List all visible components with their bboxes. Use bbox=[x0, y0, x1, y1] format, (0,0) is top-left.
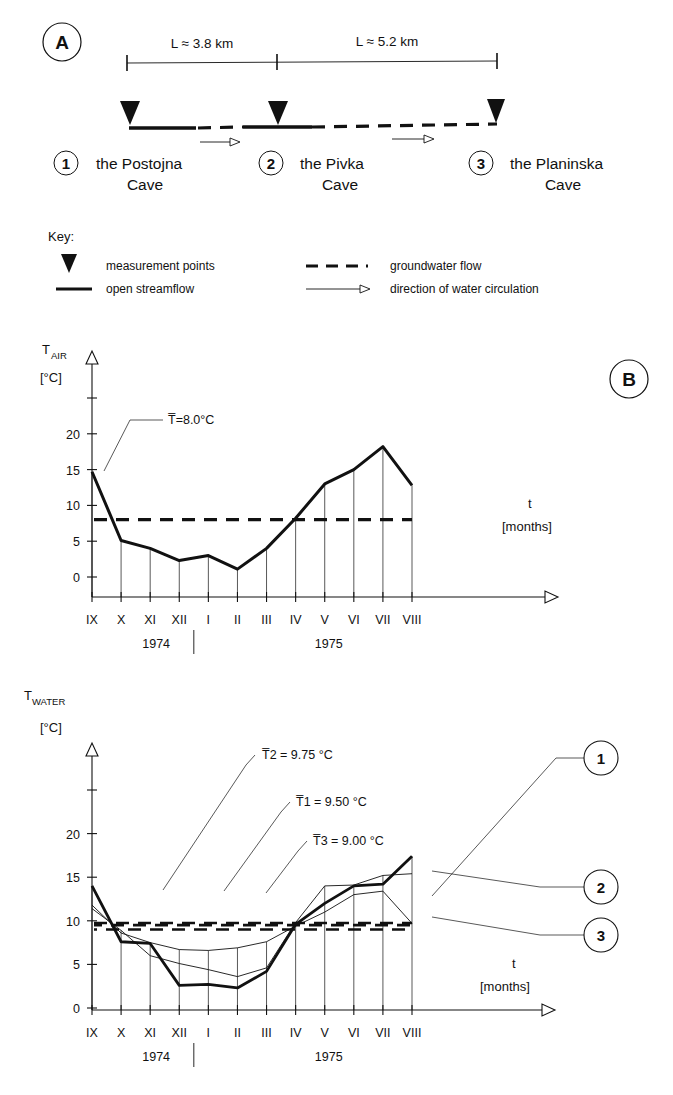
y-axis-tick-label: 10 bbox=[66, 499, 80, 513]
water-circulation-arrow-2 bbox=[392, 135, 434, 143]
arrow-icon bbox=[306, 285, 370, 293]
x-axis-month-label: V bbox=[321, 1026, 330, 1040]
air-chart-y-axis-name: T bbox=[42, 342, 50, 357]
series-number-2: 2 bbox=[597, 879, 605, 896]
x-axis-month-label: X bbox=[117, 613, 126, 627]
x-axis-month-label: III bbox=[261, 613, 271, 627]
cave-name-line2-2: Cave bbox=[322, 176, 358, 193]
y-axis-tick-label: 0 bbox=[73, 571, 80, 585]
figure-svg: A L ≈ 3.8 km L ≈ 5.2 km bbox=[0, 0, 673, 1095]
y-axis-tick-label: 5 bbox=[73, 535, 80, 549]
water-chart-y-axis-name: T bbox=[24, 688, 32, 703]
air-chart-y-axis-unit: [°C] bbox=[40, 370, 62, 385]
cave-name-line2-1: Cave bbox=[127, 176, 163, 193]
x-axis-month-label: VIII bbox=[403, 1026, 422, 1040]
distance-label-2: L ≈ 5.2 km bbox=[356, 34, 418, 49]
cave-name-line1-3: the Planinska bbox=[510, 155, 603, 172]
y-axis-arrowhead bbox=[86, 351, 98, 364]
stream-schematic bbox=[120, 99, 505, 146]
key-label-open-streamflow: open streamflow bbox=[106, 282, 194, 296]
key-label-groundwater-flow: groundwater flow bbox=[390, 259, 482, 273]
x-axis-month-label: II bbox=[234, 1026, 241, 1040]
air-chart-plot-area: 05101520IXXXIXIIIIIIIIIVVVIVIIVIII197419… bbox=[66, 351, 558, 654]
y-axis-tick-label: 0 bbox=[73, 1002, 80, 1016]
water-chart-mean-label-t3: T̅3 = 9.00 °C bbox=[313, 834, 384, 848]
x-axis-month-label: IV bbox=[290, 1026, 302, 1040]
measurement-point-marker-1 bbox=[120, 101, 140, 125]
x-axis-month-label: X bbox=[117, 1026, 126, 1040]
water-chart-plot-area: 05101520IXXXIXIIIIIIIIIVVVIVIIVIII197419… bbox=[66, 743, 555, 1067]
cave-entry-1: 1 the Postojna Cave bbox=[54, 151, 183, 193]
cave-name-line2-3: Cave bbox=[545, 176, 581, 193]
distance-ruler: L ≈ 3.8 km L ≈ 5.2 km bbox=[127, 34, 497, 71]
x-axis-month-label: IV bbox=[290, 613, 302, 627]
x-axis-month-label: I bbox=[207, 613, 210, 627]
x-axis-month-label: XII bbox=[172, 613, 187, 627]
x-axis-month-label: IX bbox=[86, 1026, 98, 1040]
y-axis-tick-label: 15 bbox=[66, 464, 80, 478]
year-label: 1974 bbox=[142, 637, 170, 651]
triangle-marker-icon bbox=[61, 254, 77, 273]
y-axis-arrowhead bbox=[86, 743, 98, 756]
water-chart-mean-leader-lines bbox=[163, 755, 307, 893]
cave-number-1: 1 bbox=[62, 155, 70, 172]
x-axis-month-label: XI bbox=[144, 613, 156, 627]
x-axis-month-label: VI bbox=[348, 613, 360, 627]
y-axis-tick-label: 15 bbox=[66, 871, 80, 885]
water-chart-y-axis-unit: [°C] bbox=[40, 720, 62, 735]
water-circulation-arrow-1 bbox=[200, 138, 240, 146]
y-axis-tick-label: 10 bbox=[66, 915, 80, 929]
distance-label-1: L ≈ 3.8 km bbox=[171, 36, 233, 51]
cave-name-line1-1: the Postojna bbox=[96, 155, 183, 172]
x-axis-arrowhead bbox=[542, 1004, 555, 1016]
x-axis-month-label: II bbox=[234, 613, 241, 627]
key-legend: Key: measurement points open streamflow … bbox=[48, 229, 539, 296]
panel-a: A L ≈ 3.8 km L ≈ 5.2 km bbox=[43, 23, 603, 296]
x-axis-month-label: III bbox=[261, 1026, 271, 1040]
x-axis-month-label: IX bbox=[86, 613, 98, 627]
key-label-direction-of-water-circulation: direction of water circulation bbox=[390, 282, 539, 296]
x-axis-month-label: VI bbox=[348, 1026, 360, 1040]
chart-water-temperature: T WATER [°C] t [months] 05101520IXXXIXII… bbox=[24, 688, 618, 1067]
x-axis-arrowhead bbox=[545, 591, 558, 603]
series-callout-2: 2 bbox=[432, 870, 618, 904]
air-chart-x-axis-name: t bbox=[528, 496, 532, 511]
y-axis-tick-label: 20 bbox=[66, 428, 80, 442]
year-label: 1974 bbox=[142, 1050, 170, 1064]
water-chart-y-axis-subscript: WATER bbox=[32, 696, 65, 707]
air-chart-y-axis-subscript: AIR bbox=[51, 350, 67, 361]
cave-list: 1 the Postojna Cave 2 the Pivka Cave 3 t… bbox=[54, 151, 603, 193]
x-axis-month-label: VII bbox=[375, 613, 390, 627]
x-axis-month-label: XII bbox=[172, 1026, 187, 1040]
x-axis-month-label: VII bbox=[375, 1026, 390, 1040]
key-label-measurement-points: measurement points bbox=[106, 259, 215, 273]
air-chart-x-axis-unit: [months] bbox=[502, 519, 552, 534]
year-label: 1975 bbox=[315, 1050, 343, 1064]
water-chart-x-axis-unit: [months] bbox=[480, 979, 530, 994]
series-callout-3: 3 bbox=[432, 917, 618, 952]
cave-entry-3: 3 the Planinska Cave bbox=[469, 151, 603, 193]
measurement-point-marker-2 bbox=[268, 101, 288, 125]
air-chart-mean-leader-line bbox=[104, 420, 163, 471]
year-label: 1975 bbox=[315, 637, 343, 651]
water-chart-mean-label-t2: T̅2 = 9.75 °C bbox=[262, 748, 333, 762]
air-chart-mean-line-label: T̅=8.0°C bbox=[168, 413, 215, 427]
panel-b-letter: B bbox=[622, 369, 636, 390]
y-axis-tick-label: 5 bbox=[73, 958, 80, 972]
key-title: Key: bbox=[48, 229, 74, 244]
series-callout-1: 1 bbox=[432, 741, 618, 896]
x-axis-month-label: XI bbox=[144, 1026, 156, 1040]
panel-a-letter: A bbox=[55, 32, 69, 53]
series-number-3: 3 bbox=[597, 927, 605, 944]
y-axis-tick-label: 20 bbox=[66, 828, 80, 842]
cave-name-line1-2: the Pivka bbox=[300, 155, 364, 172]
groundwater-flow-segment-1 bbox=[198, 127, 243, 128]
measurement-point-marker-3 bbox=[487, 99, 505, 123]
water-chart-x-axis-name: t bbox=[512, 956, 516, 971]
cave-number-3: 3 bbox=[477, 155, 485, 172]
groundwater-flow-segment-2 bbox=[312, 124, 497, 127]
x-axis-month-label: V bbox=[321, 613, 330, 627]
cave-number-2: 2 bbox=[267, 155, 275, 172]
series-number-1: 1 bbox=[597, 750, 605, 767]
figure-root: A L ≈ 3.8 km L ≈ 5.2 km bbox=[0, 0, 673, 1095]
